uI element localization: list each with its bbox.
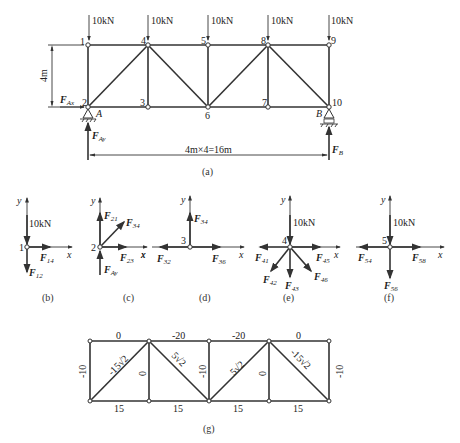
svg-text:5√2: 5√2 (170, 350, 189, 369)
svg-text:-15√2: -15√2 (106, 353, 131, 378)
svg-text:1: 1 (19, 242, 24, 253)
svg-text:10kN: 10kN (293, 217, 315, 228)
svg-text:FAx: FAx (59, 94, 75, 107)
load-arrows: 10kN 10kN 10kN 10kN 10kN (89, 15, 353, 40)
svg-text:F41: F41 (254, 252, 269, 265)
svg-text:9: 9 (331, 35, 336, 46)
svg-text:x: x (140, 249, 146, 260)
svg-text:x: x (333, 249, 339, 260)
force-top-2: -20 (172, 330, 185, 341)
svg-text:A: A (95, 108, 103, 119)
svg-text:F36: F36 (211, 253, 226, 266)
fbd-node-4: y x 10kN 4 F41 F45 F42 F43 F46 (254, 194, 340, 293)
svg-text:F21: F21 (103, 210, 118, 223)
node-labels: 1 4 5 8 9 2 3 6 7 10 (80, 35, 342, 121)
caption-g: (g) (203, 423, 215, 435)
svg-text:F34: F34 (193, 213, 208, 226)
svg-text:8: 8 (261, 35, 266, 46)
support-B: B FB (316, 108, 344, 160)
svg-text:5: 5 (201, 35, 206, 46)
svg-text:5√2: 5√2 (228, 359, 247, 378)
caption-c: (c) (123, 292, 134, 304)
svg-text:-15√2: -15√2 (289, 347, 314, 372)
caption-a: (a) (202, 166, 213, 178)
force-bot-4: 15 (293, 403, 303, 414)
svg-text:FAy: FAy (91, 130, 107, 143)
force-top-4: 0 (296, 330, 301, 341)
svg-text:-10: -10 (197, 365, 208, 378)
svg-text:2: 2 (82, 97, 87, 108)
fbd-node-2: y x 2 F21 F34 F23 FAy (90, 195, 147, 277)
svg-text:10kN: 10kN (29, 218, 51, 229)
svg-text:B: B (316, 108, 322, 119)
svg-text:2: 2 (91, 242, 96, 253)
svg-text:F14: F14 (39, 252, 54, 265)
svg-text:F32: F32 (156, 253, 171, 266)
svg-text:-10: -10 (77, 365, 88, 378)
caption-f: (f) (384, 292, 394, 304)
svg-text:y: y (380, 194, 386, 205)
svg-text:x: x (66, 249, 72, 260)
svg-text:0: 0 (257, 371, 268, 376)
svg-text:4: 4 (282, 235, 287, 246)
fbd-node-1: y x 10kN 1 F14 F12 (16, 195, 72, 280)
svg-text:3: 3 (140, 97, 145, 108)
svg-text:4m×4=16m: 4m×4=16m (185, 144, 232, 155)
span-dimension: 4m×4=16m (89, 144, 328, 157)
svg-text:10kN: 10kN (393, 217, 415, 228)
caption-e: (e) (283, 292, 294, 304)
load-label: 10kN (271, 15, 293, 26)
load-label: 10kN (151, 15, 173, 26)
svg-text:4: 4 (141, 35, 146, 46)
svg-text:0: 0 (137, 371, 148, 376)
fbd-node-3: y x x 3 F34 F32 F36 (140, 194, 244, 266)
svg-text:10: 10 (332, 97, 342, 108)
svg-text:F54: F54 (357, 252, 372, 265)
truss-figure: 10kN 10kN 10kN 10kN 10kN 1 4 5 8 9 2 3 6… (0, 0, 460, 443)
svg-text:F46: F46 (313, 271, 328, 284)
force-top-1: 0 (116, 330, 121, 341)
svg-text:5: 5 (382, 235, 387, 246)
svg-text:x: x (437, 249, 443, 260)
force-bot-1: 15 (114, 403, 124, 414)
svg-text:F12: F12 (28, 267, 43, 280)
svg-text:-10: -10 (334, 365, 345, 378)
caption-d: (d) (199, 292, 211, 304)
svg-text:F45: F45 (315, 252, 330, 265)
load-label: 10kN (211, 15, 233, 26)
svg-text:4m: 4m (38, 69, 49, 82)
svg-text:7: 7 (262, 97, 267, 108)
load-label: 10kN (92, 15, 114, 26)
svg-text:F58: F58 (411, 252, 426, 265)
svg-text:y: y (180, 194, 186, 205)
svg-text:y: y (90, 195, 96, 206)
svg-text:FB: FB (331, 144, 344, 157)
svg-text:y: y (280, 194, 286, 205)
load-label: 10kN (331, 15, 353, 26)
svg-text:6: 6 (205, 110, 210, 121)
svg-text:F34: F34 (125, 217, 140, 230)
svg-text:F23: F23 (119, 252, 134, 265)
force-top-3: -20 (232, 330, 245, 341)
force-bot-3: 15 (233, 403, 243, 414)
caption-b: (b) (42, 292, 54, 304)
truss-main (86, 43, 331, 109)
svg-text:3: 3 (181, 235, 186, 246)
svg-text:F42: F42 (262, 274, 277, 287)
svg-text:x: x (238, 249, 244, 260)
fbd-node-5: y x 10kN 5 F54 F58 F56 (356, 194, 444, 293)
force-bot-2: 15 (173, 403, 183, 414)
member-force-diagram: 0 -20 -20 0 15 15 15 15 -10 0 -10 0 -10 … (77, 330, 345, 414)
svg-text:FAy: FAy (103, 264, 119, 277)
svg-text:y: y (16, 195, 22, 206)
